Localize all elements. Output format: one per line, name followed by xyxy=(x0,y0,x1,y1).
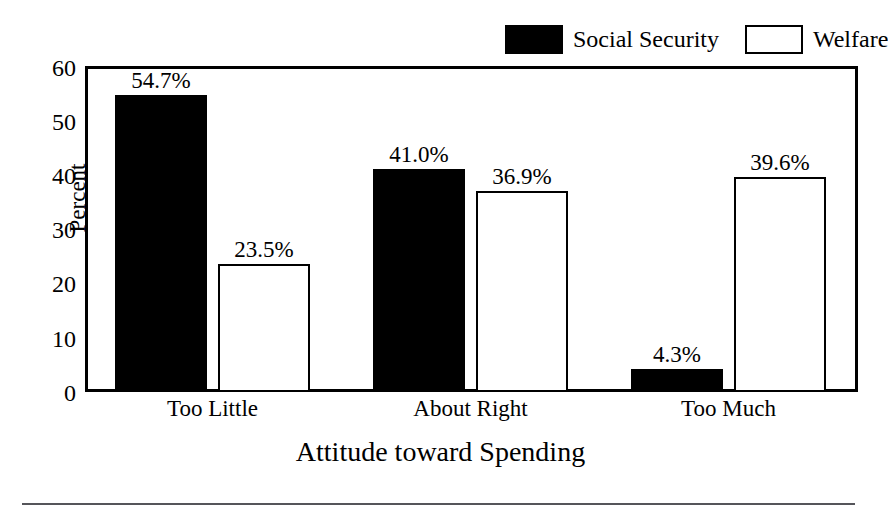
hollow-square-swatch-icon xyxy=(745,25,803,54)
x-category-label-about-right: About Right xyxy=(373,397,568,420)
y-tick-label-20: 20 xyxy=(0,272,76,296)
bar-social-security-about-right xyxy=(373,169,465,392)
x-axis-title: Attitude toward Spending xyxy=(0,438,881,466)
bar-welfare-too-little xyxy=(218,264,310,392)
y-tick-label-40: 40 xyxy=(0,164,76,188)
bar-social-security-too-much xyxy=(631,369,723,392)
x-category-label-too-little: Too Little xyxy=(115,397,310,420)
bar-value-welfare-too-little: 23.5% xyxy=(218,238,310,261)
bar-value-social-security-too-much: 4.3% xyxy=(631,343,723,366)
legend-item-welfare: Welfare xyxy=(745,25,888,54)
bar-value-social-security-too-little: 54.7% xyxy=(115,69,207,92)
legend-label-welfare: Welfare xyxy=(813,27,888,51)
x-category-label-too-much: Too Much xyxy=(631,397,826,420)
y-tick-label-30: 30 xyxy=(0,218,76,242)
bar-value-welfare-too-much: 39.6% xyxy=(734,151,826,174)
bar-value-welfare-about-right: 36.9% xyxy=(476,165,568,188)
y-tick-label-50: 50 xyxy=(0,110,76,134)
filled-square-swatch-icon xyxy=(505,25,563,54)
y-tick-label-60: 60 xyxy=(0,56,76,80)
y-tick-label-10: 10 xyxy=(0,327,76,351)
bar-value-social-security-about-right: 41.0% xyxy=(373,143,465,166)
bottom-divider-rule xyxy=(22,503,855,505)
legend-label-social-security: Social Security xyxy=(573,27,719,51)
legend-item-social-security: Social Security xyxy=(505,25,719,54)
bar-welfare-too-much xyxy=(734,177,826,392)
y-tick-label-0: 0 xyxy=(0,381,76,405)
bar-social-security-too-little xyxy=(115,95,207,392)
chart-legend: Social Security Welfare xyxy=(505,22,888,56)
bar-welfare-about-right xyxy=(476,191,568,392)
